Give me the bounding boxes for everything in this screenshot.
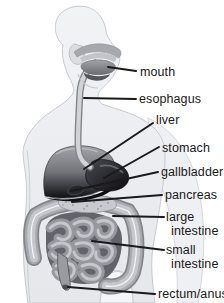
label-mouth: mouth [140, 65, 175, 79]
small-intestine-shape [46, 212, 122, 284]
label-pancreas: pancreas [165, 188, 217, 202]
label-rectum-anus: rectum/anus [158, 287, 224, 301]
label-large-intestine: large intestine [166, 210, 224, 238]
label-stomach: stomach [162, 141, 210, 155]
digestive-system-diagram: mouth esophagus liver stomach gallbladde… [0, 0, 224, 303]
label-gallbladder: gallbladder [161, 165, 223, 179]
label-liver: liver [156, 113, 179, 127]
leader-line-esophagus [84, 98, 136, 99]
label-small-intestine: small intestine [166, 243, 224, 271]
label-esophagus: esophagus [139, 92, 201, 106]
leader-line-large-intestine [113, 216, 164, 217]
